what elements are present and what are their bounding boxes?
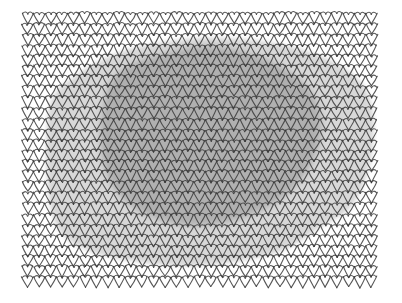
knit-swatch-canvas: Knitted stockinette fabric swatch with c… (0, 0, 402, 303)
knit-fabric-illustration (0, 0, 402, 303)
